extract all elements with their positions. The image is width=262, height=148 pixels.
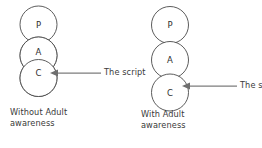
script-annotation-label: The script (104, 68, 146, 78)
ego-state-circle-child-outline (20, 60, 57, 97)
ego-state-label-parent: P (167, 20, 172, 30)
caption-line-2: awareness (141, 120, 186, 131)
caption-line-1: With Adult (141, 109, 186, 120)
ego-state-label-child: C (167, 88, 173, 98)
ego-state-label-child: C (36, 68, 42, 78)
diagram-figure: P A C P A C The (0, 0, 262, 148)
caption-line-1: Without Adult (10, 107, 67, 118)
panel-without-adult-awareness: P A C (20, 6, 101, 97)
panel-caption-with-adult-awareness: With Adult awareness (141, 109, 186, 130)
caption-line-2: awareness (10, 118, 67, 129)
script-annotation-label: The script (240, 81, 262, 91)
ego-state-label-adult: A (167, 55, 173, 65)
ego-state-label-parent: P (36, 20, 41, 30)
panel-caption-without-adult-awareness: Without Adult awareness (10, 107, 67, 128)
panel-with-adult-awareness: P A C (152, 7, 238, 112)
ego-state-label-adult: A (36, 47, 42, 57)
